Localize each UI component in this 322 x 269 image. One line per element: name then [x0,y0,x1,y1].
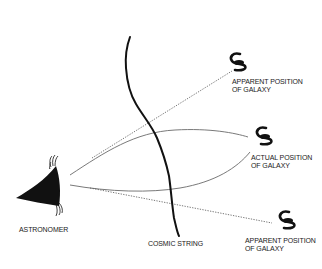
label-actual-line1: ACTUAL POSITION [251,154,312,162]
label-cosmic-string: COSMIC STRING [148,240,203,248]
label-astronomer-text: ASTRONOMER [19,226,68,234]
label-astronomer: ASTRONOMER [19,226,68,234]
label-apparent-bottom: APPARENT POSITION OF GALAXY [245,237,316,253]
cosmic-string [126,37,179,236]
lower-apparent-sightline [90,188,272,223]
label-cosmic-string-text: COSMIC STRING [148,240,203,248]
label-apparent-top-line1: APPARENT POSITION [232,78,303,86]
label-apparent-top: APPARENT POSITION OF GALAXY [232,78,303,94]
upper-light-path [70,130,248,175]
label-actual: ACTUAL POSITION OF GALAXY [251,154,312,170]
galaxy-apparent-top-icon [231,54,245,71]
astronomer-eye-icon [16,155,62,216]
label-actual-line2: OF GALAXY [251,162,312,170]
galaxy-actual-icon [257,128,271,145]
label-apparent-top-line2: OF GALAXY [232,86,303,94]
label-apparent-bottom-line1: APPARENT POSITION [245,237,316,245]
upper-apparent-sightline [92,71,232,158]
galaxy-apparent-bottom-icon [280,212,294,229]
label-apparent-bottom-line2: OF GALAXY [245,245,316,253]
